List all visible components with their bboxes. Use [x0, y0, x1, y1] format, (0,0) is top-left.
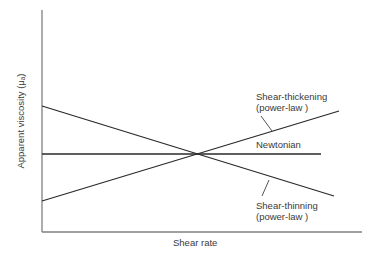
shear-thinning-label-line2: (power-law )	[256, 211, 318, 222]
shear-thickening-label-line2: (power-law )	[256, 102, 327, 113]
shear-thickening-label-line1: Shear-thickening	[256, 91, 327, 102]
shear-thinning-label: Shear-thinning (power-law )	[256, 200, 318, 222]
shear-thickening-line	[42, 111, 339, 201]
newtonian-label: Newtonian	[256, 139, 301, 150]
viscosity-diagram	[0, 0, 376, 259]
shear-thinning-leader	[262, 180, 269, 196]
x-axis-label: Shear rate	[173, 237, 217, 248]
y-axis-label: Apparent viscosity (μₐ)	[15, 73, 26, 168]
shear-thickening-leader	[261, 116, 272, 131]
shear-thickening-label: Shear-thickening (power-law )	[256, 91, 327, 113]
shear-thinning-line	[42, 106, 334, 196]
shear-thinning-label-line1: Shear-thinning	[256, 200, 318, 211]
